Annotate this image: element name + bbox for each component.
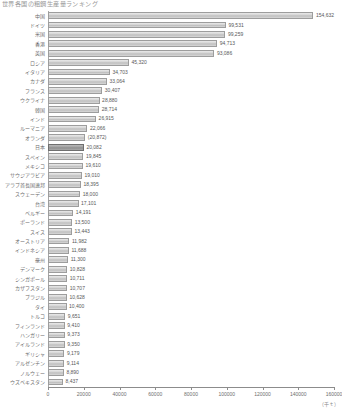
bar-row: ルーマニア22,066 <box>48 124 334 133</box>
bar-row: アルゼンチン9,114 <box>48 358 334 367</box>
bar <box>48 256 68 263</box>
bar <box>48 369 64 376</box>
bar-category-label: インドネシア <box>15 248 45 253</box>
x-axis-tick-label: 140000 <box>290 391 307 397</box>
x-axis-tick <box>298 387 299 390</box>
bar-category-label: ポーランド <box>20 220 45 225</box>
bar-row: イタリア34,703 <box>48 67 334 76</box>
bar-row: 中国154,632 <box>48 11 334 20</box>
bar <box>48 294 67 301</box>
x-axis-unit-label: （千ｔ） <box>319 400 339 407</box>
bar-value-label: 13,443 <box>75 229 90 234</box>
bar-row: 米国99,259 <box>48 30 334 39</box>
bar-row: アイルランド9,350 <box>48 340 334 349</box>
bar-category-label: カナダ <box>30 79 45 84</box>
bar <box>48 191 80 198</box>
bar <box>48 228 72 235</box>
bar <box>48 97 100 104</box>
bar <box>48 87 102 94</box>
bar-category-label: スペイン <box>25 154 45 159</box>
x-axis-tick <box>48 387 49 390</box>
bar-row: スイス13,443 <box>48 227 334 236</box>
bar-row: インド26,915 <box>48 114 334 123</box>
bar-category-label: シンガポール <box>15 276 45 281</box>
bar-row: ウクライナ28,880 <box>48 96 334 105</box>
x-axis-tick-label: 120000 <box>254 391 271 397</box>
x-axis-tick-label: 60000 <box>148 391 162 397</box>
bar <box>48 285 67 292</box>
bar-value-label: 10,400 <box>69 304 84 309</box>
plot-area: 中国154,632ドイツ99,531米国99,259香港94,713英国93,0… <box>48 11 334 387</box>
bar-row: カナダ33,064 <box>48 77 334 86</box>
bar-category-label: 豪州 <box>35 257 45 262</box>
bar-value-label: 9,651 <box>68 314 81 319</box>
bar-value-label: 10,707 <box>70 286 85 291</box>
chart-title: 世界各国の粗鋼生産量ランキング <box>2 0 98 8</box>
bar-category-label: タイ <box>35 304 45 309</box>
bar-row: フランス30,407 <box>48 86 334 95</box>
bar-row: ロシア45,320 <box>48 58 334 67</box>
x-axis-tick <box>84 387 85 390</box>
bar-value-label: 18,395 <box>83 182 98 187</box>
bar-row: タイ10,400 <box>48 302 334 311</box>
bar-chart: 世界各国の粗鋼生産量ランキング 中国154,632ドイツ99,531米国99,2… <box>0 0 342 411</box>
bar <box>48 144 84 151</box>
bar <box>48 50 214 57</box>
bar-value-label: 8,890 <box>66 370 79 375</box>
bar-category-label: トルコ <box>30 314 45 319</box>
bar-row: トルコ9,651 <box>48 312 334 321</box>
bar-row: インドネシア11,688 <box>48 246 334 255</box>
bar <box>48 275 67 282</box>
bar-row: 日本20,082 <box>48 142 334 151</box>
bar-value-label: 10,711 <box>70 276 85 281</box>
bar-row: ギリシャ9,179 <box>48 349 334 358</box>
bar-category-label: オーストリア <box>15 239 45 244</box>
x-axis-tick-label: 100000 <box>218 391 235 397</box>
bar-category-label: フィンランド <box>15 323 45 328</box>
x-axis-tick <box>334 387 335 390</box>
x-axis-tick <box>191 387 192 390</box>
bar-value-label: (20,872) <box>88 135 107 140</box>
bar-category-label: ギリシャ <box>25 351 45 356</box>
bar-category-label: ハンガリー <box>20 332 45 337</box>
bar <box>48 341 65 348</box>
bar-row: ハンガリー9,373 <box>48 330 334 339</box>
bar-row: ベルギー14,191 <box>48 208 334 217</box>
bar-value-label: 28,880 <box>102 98 117 103</box>
bar <box>48 40 217 47</box>
bar-value-label: 17,101 <box>81 201 96 206</box>
bar <box>48 172 82 179</box>
bar-value-label: 11,300 <box>71 257 86 262</box>
x-axis-tick-label: 40000 <box>113 391 127 397</box>
bar <box>48 22 226 29</box>
bar <box>48 322 65 329</box>
x-axis-tick-label: 0 <box>47 391 50 397</box>
bar <box>48 69 110 76</box>
bar-value-label: 22,066 <box>90 126 105 131</box>
bar <box>48 59 129 66</box>
bar-row: 英国93,086 <box>48 49 334 58</box>
bar <box>48 116 96 123</box>
bar <box>48 379 63 386</box>
bar-row: サウジアラビア19,010 <box>48 171 334 180</box>
bar-category-label: ベルギー <box>25 210 45 215</box>
bar-category-label: イタリア <box>25 70 45 75</box>
bar-value-label: 11,982 <box>72 239 87 244</box>
bar-value-label: 33,064 <box>110 79 125 84</box>
bar-row: シンガポール10,711 <box>48 274 334 283</box>
bar-row: スウェーデン18,000 <box>48 189 334 198</box>
bar <box>48 210 73 217</box>
bar-value-label: 94,713 <box>220 41 235 46</box>
bar-category-label: サウジアラビア <box>10 173 45 178</box>
bar <box>48 125 87 132</box>
x-axis-tick <box>227 387 228 390</box>
bar-category-label: アルゼンチン <box>15 361 45 366</box>
bar-category-label: 日本 <box>35 145 45 150</box>
x-axis-tick-label: 160000 <box>326 391 342 397</box>
bar-category-label: インド <box>30 116 45 121</box>
bar <box>48 106 99 113</box>
bar-value-label: 18,000 <box>83 192 98 197</box>
bar-value-label: 10,628 <box>69 295 84 300</box>
bar-rows: 中国154,632ドイツ99,531米国99,259香港94,713英国93,0… <box>48 11 334 387</box>
bar-value-label: 45,320 <box>132 60 147 65</box>
